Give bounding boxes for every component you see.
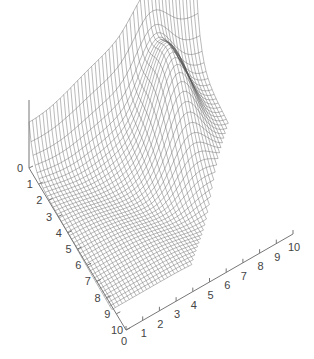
mesh-line xyxy=(108,255,195,303)
y-tick-label: 9 xyxy=(104,308,110,320)
mesh-line xyxy=(112,265,192,310)
x-tick-label: 1 xyxy=(141,327,147,339)
y-tick-label: 4 xyxy=(56,227,62,239)
axes xyxy=(29,100,293,330)
tick-mark xyxy=(29,166,33,168)
mesh-line xyxy=(37,37,204,173)
mesh-line xyxy=(106,53,189,267)
surface-plot: 012345678910012345678910 xyxy=(0,0,314,359)
x-tick-label: 6 xyxy=(224,279,230,291)
mesh-line xyxy=(193,0,227,128)
mesh-line xyxy=(78,81,161,282)
x-tick-label: 3 xyxy=(174,308,180,320)
y-tick-label: 5 xyxy=(65,243,71,255)
x-tick-label: 8 xyxy=(258,260,264,272)
surface-mesh xyxy=(29,0,228,310)
y-tick-label: 0 xyxy=(17,162,23,174)
surface-plot-canvas: 012345678910012345678910 xyxy=(0,0,314,359)
x-tick-label: 10 xyxy=(288,241,300,253)
mesh-line xyxy=(84,188,213,260)
y-tick-label: 2 xyxy=(36,194,42,206)
x-tick-label: 5 xyxy=(207,289,213,301)
x-tick-label: 9 xyxy=(274,251,280,263)
tick-mark xyxy=(58,215,62,217)
y-tick-label: 1 xyxy=(27,178,33,190)
y-tick-label: 3 xyxy=(46,211,52,223)
x-tick-label: 2 xyxy=(157,318,163,330)
y-tick-label: 6 xyxy=(75,259,81,271)
mesh-line xyxy=(33,120,116,307)
mesh-line xyxy=(161,0,214,180)
tick-mark xyxy=(68,231,72,233)
y-tick-label: 8 xyxy=(95,292,101,304)
y-tick-label: 7 xyxy=(85,275,91,287)
x-tick-label: 0 xyxy=(121,335,127,347)
x-tick-label: 4 xyxy=(191,299,197,311)
mesh-line xyxy=(98,235,202,286)
tick-mark xyxy=(116,312,120,314)
mesh-line xyxy=(126,25,199,243)
x-tick-label: 7 xyxy=(241,270,247,282)
